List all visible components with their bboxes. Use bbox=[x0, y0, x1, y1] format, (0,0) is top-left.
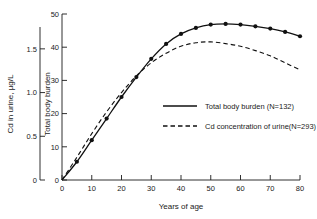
x-tick-label: 80 bbox=[296, 184, 304, 193]
x-tick-label: 70 bbox=[266, 184, 274, 193]
y-inner-tick-label: 0 bbox=[55, 176, 59, 185]
series-total-body-burden-markers bbox=[75, 22, 302, 164]
x-tick-label: 10 bbox=[88, 184, 96, 193]
data-point bbox=[224, 22, 228, 26]
x-tick-label: 20 bbox=[117, 184, 125, 193]
x-tick-label: 0 bbox=[60, 184, 64, 193]
data-point bbox=[179, 32, 183, 36]
chart-legend: Total body burden (N=132) Cd concentrati… bbox=[163, 102, 317, 131]
data-point bbox=[283, 30, 287, 34]
data-point bbox=[75, 160, 79, 164]
data-point bbox=[90, 138, 94, 142]
data-point bbox=[194, 26, 198, 30]
y-inner-tick-label: 50 bbox=[51, 10, 59, 19]
y-outer-tick-label: 0 bbox=[33, 176, 37, 185]
chart-figure: 00.51.01.5 Cd in urine, µg/L 01020304050… bbox=[0, 0, 317, 219]
data-point bbox=[119, 95, 123, 99]
y-axis-inner: 01020304050 Total body burden bbox=[43, 10, 67, 185]
data-point bbox=[209, 23, 213, 27]
y-inner-tick-label: 40 bbox=[51, 43, 59, 52]
x-axis-title: Years of age bbox=[159, 202, 204, 211]
y-axis-outer-title: Cd in urine, µg/L bbox=[6, 74, 15, 133]
data-point bbox=[298, 34, 302, 38]
data-point bbox=[164, 42, 168, 46]
x-tick-label: 30 bbox=[147, 184, 155, 193]
plot-series bbox=[62, 22, 302, 180]
data-point bbox=[149, 57, 153, 61]
chart-canvas: 00.51.01.5 Cd in urine, µg/L 01020304050… bbox=[0, 0, 317, 219]
legend-label-total-body-burden: Total body burden (N=132) bbox=[205, 102, 295, 111]
data-point bbox=[134, 75, 138, 79]
y-outer-tick-label: 1.0 bbox=[27, 88, 37, 97]
x-tick-label: 60 bbox=[236, 184, 244, 193]
x-axis-ticks: 01020304050607080 bbox=[60, 175, 304, 193]
y-outer-tick-label: 1.5 bbox=[27, 45, 37, 54]
data-point bbox=[238, 23, 242, 27]
data-point bbox=[253, 24, 257, 28]
y-axis-inner-ticks: 01020304050 bbox=[51, 10, 67, 185]
x-tick-label: 50 bbox=[207, 184, 215, 193]
x-tick-label: 40 bbox=[177, 184, 185, 193]
data-point bbox=[268, 27, 272, 31]
legend-label-cd-concentration: Cd concentration of urine(N=293) bbox=[205, 122, 317, 131]
y-inner-tick-label: 10 bbox=[51, 143, 59, 152]
y-outer-tick-label: 0.5 bbox=[27, 132, 37, 141]
data-point bbox=[105, 116, 109, 120]
x-axis: 01020304050607080 Years of age bbox=[60, 175, 304, 211]
y-axis-inner-title: Total body burden bbox=[43, 72, 52, 136]
y-axis-outer: 00.51.01.5 Cd in urine, µg/L bbox=[6, 27, 45, 185]
